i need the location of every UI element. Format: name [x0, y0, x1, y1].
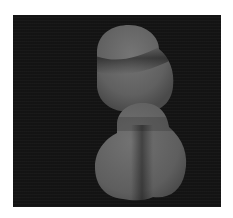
- cells-illustration: [13, 15, 221, 207]
- top-cell: [93, 25, 173, 112]
- image-frame: [13, 15, 221, 207]
- bottom-cell: [95, 103, 186, 205]
